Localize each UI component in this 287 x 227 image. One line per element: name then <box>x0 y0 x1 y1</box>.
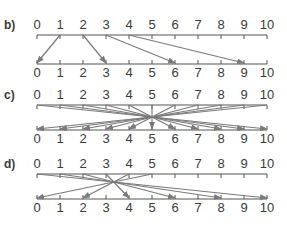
panel-label: d) <box>4 157 15 171</box>
panel-label: b) <box>4 18 15 32</box>
tick-label: 1 <box>56 17 63 32</box>
tick-label: 9 <box>240 200 247 215</box>
tick-label: 8 <box>217 87 224 102</box>
tick-label: 7 <box>194 87 201 102</box>
tick-label: 6 <box>171 200 178 215</box>
tick-label: 3 <box>102 131 109 146</box>
mapping-arrow <box>106 174 129 198</box>
tick-label: 10 <box>260 200 274 215</box>
diagram-canvas: b)012345678910012345678910c)012345678910… <box>0 0 287 227</box>
tick-label: 10 <box>260 17 274 32</box>
tick-label: 3 <box>102 87 109 102</box>
tick-label: 3 <box>102 17 109 32</box>
tick-label: 9 <box>240 17 247 32</box>
tick-label: 6 <box>171 156 178 171</box>
tick-label: 2 <box>79 17 86 32</box>
tick-label: 5 <box>148 87 155 102</box>
tick-label: 7 <box>194 17 201 32</box>
tick-label: 7 <box>194 200 201 215</box>
tick-label: 1 <box>56 200 63 215</box>
tick-label: 10 <box>260 87 274 102</box>
mapping-arrow <box>60 174 221 198</box>
tick-label: 7 <box>194 65 201 80</box>
tick-label: 10 <box>260 131 274 146</box>
tick-label: 10 <box>260 65 274 80</box>
tick-label: 2 <box>79 200 86 215</box>
tick-label: 6 <box>171 17 178 32</box>
tick-label: 2 <box>79 87 86 102</box>
tick-label: 7 <box>194 156 201 171</box>
mapping-arrow <box>129 35 244 63</box>
tick-label: 5 <box>148 65 155 80</box>
tick-label: 5 <box>148 200 155 215</box>
tick-label: 5 <box>148 17 155 32</box>
tick-label: 4 <box>125 87 132 102</box>
tick-label: 1 <box>56 131 63 146</box>
tick-label: 9 <box>240 131 247 146</box>
tick-label: 10 <box>260 156 274 171</box>
tick-label: 8 <box>217 131 224 146</box>
mapping-arrow <box>83 35 106 63</box>
tick-label: 8 <box>217 200 224 215</box>
tick-label: 2 <box>79 156 86 171</box>
tick-label: 6 <box>171 65 178 80</box>
tick-label: 1 <box>56 156 63 171</box>
tick-label: 4 <box>125 156 132 171</box>
tick-label: 3 <box>102 156 109 171</box>
tick-label: 0 <box>33 156 40 171</box>
mapping-arrow <box>106 35 175 63</box>
tick-label: 3 <box>102 200 109 215</box>
tick-label: 2 <box>79 65 86 80</box>
tick-label: 8 <box>217 156 224 171</box>
tick-label: 9 <box>240 87 247 102</box>
panel-label: c) <box>4 88 15 102</box>
tick-label: 8 <box>217 17 224 32</box>
tick-label: 4 <box>125 200 132 215</box>
tick-label: 3 <box>102 65 109 80</box>
tick-label: 1 <box>56 87 63 102</box>
tick-label: 0 <box>33 200 40 215</box>
tick-label: 6 <box>171 87 178 102</box>
tick-label: 5 <box>148 156 155 171</box>
tick-label: 7 <box>194 131 201 146</box>
tick-label: 5 <box>148 131 155 146</box>
tick-label: 0 <box>33 65 40 80</box>
tick-label: 2 <box>79 131 86 146</box>
tick-label: 8 <box>217 65 224 80</box>
tick-label: 4 <box>125 65 132 80</box>
tick-label: 4 <box>125 17 132 32</box>
mapping-diagram: b)012345678910012345678910c)012345678910… <box>0 0 287 227</box>
tick-label: 0 <box>33 17 40 32</box>
tick-label: 0 <box>33 131 40 146</box>
tick-label: 9 <box>240 156 247 171</box>
tick-label: 1 <box>56 65 63 80</box>
mapping-arrow <box>37 35 60 63</box>
tick-label: 0 <box>33 87 40 102</box>
tick-label: 4 <box>125 131 132 146</box>
tick-label: 9 <box>240 65 247 80</box>
tick-label: 6 <box>171 131 178 146</box>
